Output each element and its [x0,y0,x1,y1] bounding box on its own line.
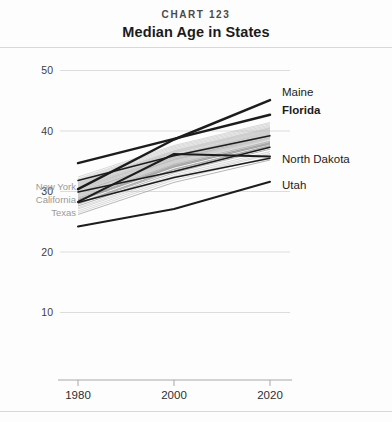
line-chart-svg: 1020304050 198020002020 MaineFloridaNort… [0,0,392,422]
series-label-maine: Maine [282,86,313,98]
chart-plot-area: 1020304050 198020002020 MaineFloridaNort… [0,0,392,422]
x-axis-group: 198020002020 [58,380,292,401]
background-series-group [78,123,270,215]
y-tick-label-10: 10 [41,306,53,318]
y-tick-label-20: 20 [41,246,53,258]
x-tick-label-2000: 2000 [161,389,187,401]
series-label-new-york: New York [36,181,76,192]
y-tick-label-50: 50 [41,64,53,76]
right-series-labels-group: MaineFloridaNorth DakotaUtah [282,86,350,191]
series-label-california: California [36,194,77,205]
x-tick-label-1980: 1980 [65,389,91,401]
x-tick-label-2020: 2020 [257,389,283,401]
series-label-utah: Utah [282,179,306,191]
series-label-north-dakota: North Dakota [282,153,350,165]
chart-card: CHART 123 Median Age in States 102030405… [0,0,392,422]
y-tick-label-40: 40 [41,125,53,137]
footer-divider [0,411,392,412]
series-label-texas: Texas [51,207,76,218]
series-label-florida: Florida [282,104,321,116]
left-series-labels-group: New YorkCaliforniaTexas [36,181,77,218]
